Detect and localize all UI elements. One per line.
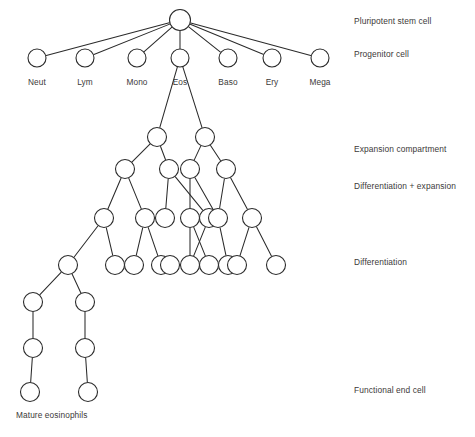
- cell-node-p-baso: [219, 49, 237, 67]
- lineage-tree-svg: NeutLymMonoEosBasoEryMega Pluripotent st…: [0, 0, 475, 437]
- stage-label-expansion-compartment: Expansion compartment: [354, 144, 447, 154]
- cell-node-e4-a: [59, 256, 78, 275]
- lineage-edge: [211, 145, 221, 160]
- stage-label-differentiation: Differentiation: [354, 257, 407, 267]
- cell-node-end-b: [79, 383, 98, 402]
- cell-node-e3-d: [181, 209, 200, 228]
- lineage-label-ery: Ery: [266, 77, 279, 87]
- node-layer: [21, 10, 330, 402]
- terminal-label-layer: Mature eosinophils: [16, 410, 87, 420]
- lineage-diagram: NeutLymMonoEosBasoEryMega Pluripotent st…: [0, 0, 475, 437]
- lineage-edge: [257, 227, 272, 256]
- cell-node-e4-g: [200, 256, 219, 275]
- cell-node-stem: [170, 10, 191, 31]
- lineage-edge: [220, 228, 226, 255]
- lineage-edge: [144, 27, 171, 51]
- cell-node-e4-f: [181, 256, 200, 275]
- lineage-edge: [161, 146, 166, 159]
- cell-node-e4-i: [228, 256, 247, 275]
- lineage-edge: [86, 358, 88, 382]
- lineage-label-eos: Eos: [173, 77, 188, 87]
- cell-node-p-ery: [263, 49, 281, 67]
- lineage-label-neut: Neut: [28, 77, 47, 87]
- lineage-edge: [74, 226, 98, 257]
- lineage-edge: [194, 146, 200, 160]
- lineage-edge: [220, 179, 225, 208]
- cell-node-e3-f: [209, 209, 228, 228]
- cell-node-e1-a: [148, 128, 167, 147]
- cell-node-end-a: [21, 383, 40, 402]
- lineage-edge: [175, 177, 202, 210]
- lineage-label-baso: Baso: [218, 77, 238, 87]
- lineage-edge: [191, 23, 311, 56]
- cell-node-e4-e: [161, 256, 180, 275]
- cell-node-e3-g: [243, 209, 262, 228]
- cell-node-p-mega: [311, 49, 329, 67]
- cell-node-d1-b: [76, 293, 95, 312]
- lineage-label-lym: Lym: [77, 77, 93, 87]
- lineage-edge: [231, 178, 248, 209]
- lineage-edge: [132, 144, 150, 162]
- lineage-label-mono: Mono: [126, 77, 147, 87]
- cell-node-e4-j: [267, 256, 286, 275]
- cell-node-e3-c: [156, 209, 175, 228]
- lineage-edge: [148, 228, 157, 256]
- cell-node-p-neut: [28, 49, 46, 67]
- cell-node-e3-b: [136, 209, 155, 228]
- lineage-edge: [72, 274, 81, 293]
- stage-label-functional-end-cell: Functional end cell: [354, 385, 426, 395]
- stage-label-differentiation-plus-expansion: Differentiation + expansion: [354, 181, 456, 191]
- lineage-edge: [46, 23, 169, 56]
- cell-node-d2-b: [76, 339, 95, 358]
- stage-label-progenitor-cell: Progenitor cell: [354, 49, 409, 59]
- lineage-edge: [136, 228, 142, 255]
- lineage-edge: [240, 228, 249, 256]
- stage-label-layer: Pluripotent stem cellProgenitor cellExpa…: [354, 16, 456, 395]
- stage-label-pluripotent-stem-cell: Pluripotent stem cell: [354, 16, 432, 26]
- cell-node-e2-b: [160, 160, 179, 179]
- cell-node-e4-c: [125, 256, 144, 275]
- lineage-edge: [40, 272, 61, 294]
- lineage-edge: [129, 178, 141, 208]
- cell-node-e3-a: [95, 209, 114, 228]
- cell-node-e1-b: [196, 128, 215, 147]
- cell-node-d2-a: [24, 339, 43, 358]
- terminal-label-mature-eosinophils: Mature eosinophils: [16, 410, 87, 420]
- cell-node-e2-a: [116, 160, 135, 179]
- lineage-edge: [31, 358, 33, 382]
- lineage-edge: [108, 178, 121, 208]
- cell-node-e4-b: [106, 256, 125, 275]
- lineage-edge: [166, 179, 168, 208]
- cell-node-e2-c: [181, 160, 200, 179]
- lineage-edge: [106, 228, 112, 255]
- lineage-label-layer: NeutLymMonoEosBasoEryMega: [28, 77, 331, 87]
- cell-node-d1-a: [24, 293, 43, 312]
- cell-node-p-lym: [76, 49, 94, 67]
- cell-node-p-mono: [128, 49, 146, 67]
- lineage-label-mega: Mega: [309, 77, 330, 87]
- cell-node-p-eos: [171, 49, 189, 67]
- cell-node-e2-d: [217, 160, 236, 179]
